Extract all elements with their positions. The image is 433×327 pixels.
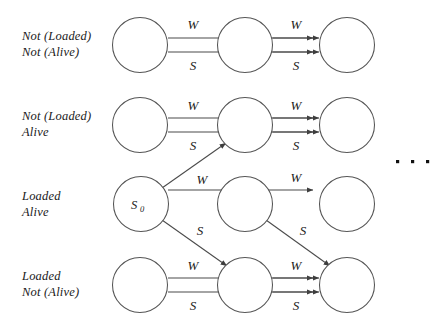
edge-label-r2c2-r2c3-wait: W <box>291 98 303 113</box>
edge-label-r2c2-r2c3-shoot: S <box>293 138 300 153</box>
edge-label-s0-r4c2-shoot: S <box>197 223 204 238</box>
edge-label-r4c1-r4c2-shoot: S <box>190 298 197 313</box>
edge-label-r1c1-r1c2-wait: W <box>188 17 200 32</box>
state-node-r1c3[interactable] <box>320 18 375 73</box>
ellipsis-continuation <box>396 160 429 163</box>
state-node-r4c1[interactable] <box>113 258 168 313</box>
edge-label-r3c2-r3c3-wait: W <box>291 170 303 185</box>
state-node-r1c2[interactable] <box>218 18 273 73</box>
state-node-r3c3[interactable] <box>320 177 375 232</box>
state-node-r4c2[interactable] <box>218 258 273 313</box>
edge-label-r1c1-r1c2-shoot: S <box>190 58 197 73</box>
edge-label-r4c1-r4c2-wait: W <box>188 258 200 273</box>
edge-label-s0-r2c2-wait: W <box>197 172 209 187</box>
edge-label-r2c1-r2c2-wait: W <box>188 98 200 113</box>
state-node-r3c2[interactable] <box>218 177 273 232</box>
edge-label-r1c2-r1c3-wait: W <box>291 17 303 32</box>
edge-label-r3c2-r4c3-shoot: S <box>300 223 307 238</box>
edge-label-r4c2-r4c3-wait: W <box>291 258 303 273</box>
state-node-r4c3[interactable] <box>320 258 375 313</box>
edge-label-r2c1-r2c2-shoot: S <box>190 138 197 153</box>
state-node-r1c1[interactable] <box>113 18 168 73</box>
start-state-label: S <box>131 198 138 212</box>
edge-label-r4c2-r4c3-shoot: S <box>293 298 300 313</box>
state-node-r2c1[interactable] <box>113 98 168 153</box>
diagram-graph: S 0 W S W S W S W S W S W S W S W S <box>0 0 433 327</box>
diagram-canvas: Not (Loaded) Not (Alive) Not (Loaded) Al… <box>0 0 433 327</box>
edge-label-r1c2-r1c3-shoot: S <box>293 58 300 73</box>
state-node-r2c2[interactable] <box>218 98 273 153</box>
state-node-r2c3[interactable] <box>320 98 375 153</box>
